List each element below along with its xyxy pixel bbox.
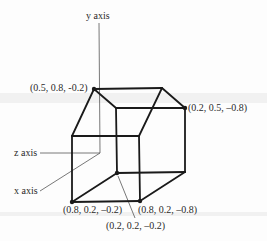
- vertex-label-back-bottom: (0.2, 0.2, –0.2): [106, 221, 165, 231]
- y-axis-line: [99, 23, 100, 153]
- z-axis-label: z axis: [14, 148, 37, 158]
- vertex-dot-back-bottom: [115, 171, 119, 175]
- edges: [72, 88, 185, 202]
- x-axis-label: x axis: [14, 186, 38, 196]
- diagram-canvas: y axis z axis x axis (0.5, 0.8, -0.2) (0…: [0, 0, 267, 241]
- vertex-dot-bottom-right: [138, 199, 142, 203]
- x-axis-line: [40, 153, 100, 191]
- vertex-dot-top-right: [183, 106, 187, 110]
- house-wireframe: [0, 0, 267, 241]
- vertex-label-bottom-right: (0.8, 0.2, –0.8): [138, 205, 197, 215]
- axes: [40, 23, 135, 218]
- y-axis-label: y axis: [86, 11, 110, 21]
- vertex-dot-top-left: [92, 87, 96, 91]
- vertex-label-bottom-left: (0.8, 0.2, –0.2): [63, 205, 122, 215]
- vertex-label-top-left: (0.5, 0.8, -0.2): [30, 83, 88, 93]
- vertex-label-top-right: (0.2, 0.5, –0.8): [188, 103, 247, 113]
